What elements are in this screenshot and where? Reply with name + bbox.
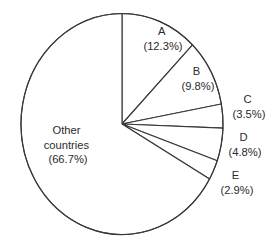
slice-label-d: D (4.8%) (229, 131, 262, 158)
slice-label-e: E (2.9%) (221, 169, 254, 196)
pie-slices-group (21, 14, 223, 235)
pie-chart-svg: A (12.3%) B (9.8%) C (3.5%) D (4.8%) E (… (0, 0, 279, 242)
pie-chart-figure: A (12.3%) B (9.8%) C (3.5%) D (4.8%) E (… (0, 0, 279, 242)
slice-label-c: C (3.5%) (233, 93, 266, 120)
